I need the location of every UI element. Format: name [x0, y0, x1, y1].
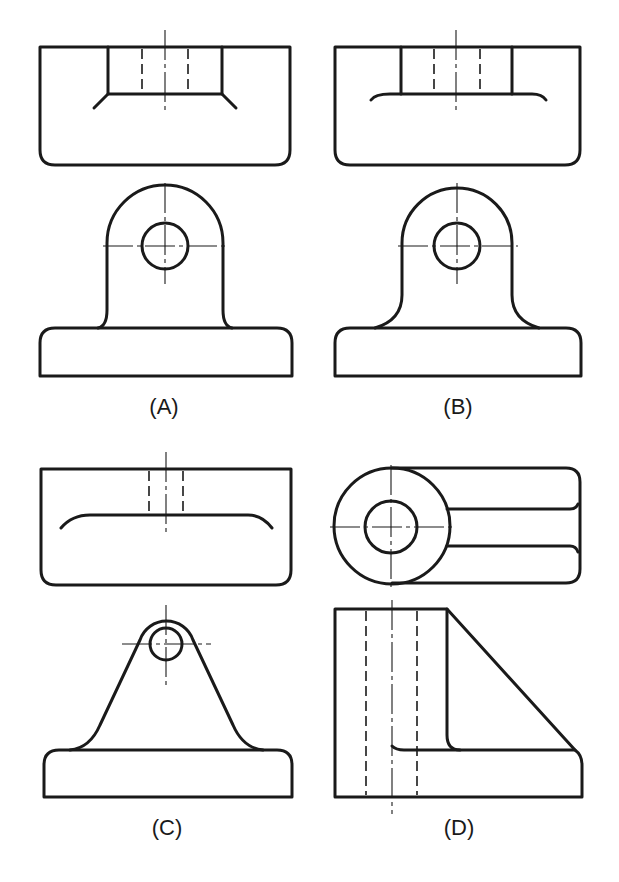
drawing-canvas: [0, 0, 619, 882]
option-c-label: (C): [137, 815, 197, 841]
option-b-top-view: [335, 30, 580, 165]
option-d-front-view: [335, 600, 582, 814]
option-d: [330, 465, 582, 814]
option-c-top-view: [41, 452, 291, 585]
option-d-top-view: [330, 465, 580, 590]
option-a-front-view: [40, 183, 292, 376]
option-c: [41, 452, 292, 797]
option-b: [335, 30, 581, 376]
option-a-top-view: [40, 30, 290, 165]
option-a: [40, 30, 292, 376]
option-b-label: (B): [428, 394, 488, 420]
option-c-front-view: [44, 605, 292, 797]
option-d-label: (D): [429, 815, 489, 841]
option-b-front-view: [335, 183, 581, 376]
option-a-label: (A): [134, 394, 194, 420]
